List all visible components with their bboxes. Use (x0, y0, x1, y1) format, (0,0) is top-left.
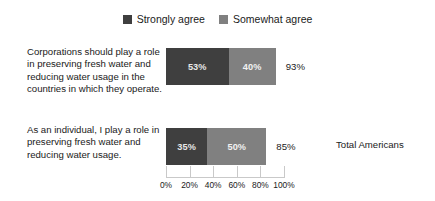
x-axis-line (166, 177, 284, 178)
bar-segment-value-somewhat-agree-0: 40% (243, 62, 262, 72)
x-axis-tick-2 (213, 166, 214, 178)
x-axis-tick-0 (166, 166, 167, 178)
stacked-bar-chart: Strongly agree Somewhat agree Corporatio… (0, 0, 435, 201)
bar-segment-strongly-agree-0[interactable]: 53% (166, 48, 229, 85)
bar-segment-value-somewhat-agree-1: 50% (227, 142, 246, 152)
stacked-bar-row-0: 53% 40% 93% (166, 48, 284, 85)
bar-category-label-1: As an individual, I play a role in prese… (27, 124, 163, 161)
bar-total-label-0: 93% (286, 48, 305, 85)
bar-category-label-0: Corporations should play a role in prese… (27, 46, 163, 96)
series-annotation-total-americans: Total Americans (336, 139, 404, 150)
x-axis-tick-4 (260, 166, 261, 178)
plot-area: Corporations should play a role in prese… (0, 0, 435, 201)
x-axis-tick-5 (284, 166, 285, 178)
x-axis-tick-label-0: 0% (160, 180, 172, 190)
bar-track-0: 53% 40% (166, 48, 284, 85)
bar-segment-somewhat-agree-0[interactable]: 40% (229, 48, 276, 85)
x-axis-tick-label-5: 100% (273, 180, 294, 190)
x-axis-tick-label-2: 40% (205, 180, 222, 190)
x-axis-tick-1 (190, 166, 191, 178)
bar-track-1: 35% 50% (166, 128, 284, 165)
stacked-bar-row-1: 35% 50% 85% (166, 128, 284, 165)
x-axis: 0%20%40%60%80%100% (166, 166, 284, 196)
x-axis-tick-3 (237, 166, 238, 178)
bar-segment-somewhat-agree-1[interactable]: 50% (207, 128, 266, 165)
bar-segment-value-strongly-agree-1: 35% (177, 142, 196, 152)
bar-segment-strongly-agree-1[interactable]: 35% (166, 128, 207, 165)
bar-segment-value-strongly-agree-0: 53% (188, 62, 207, 72)
bar-total-label-1: 85% (276, 128, 295, 165)
x-axis-tick-label-3: 60% (228, 180, 245, 190)
x-axis-tick-label-4: 80% (252, 180, 269, 190)
x-axis-tick-label-1: 20% (181, 180, 198, 190)
